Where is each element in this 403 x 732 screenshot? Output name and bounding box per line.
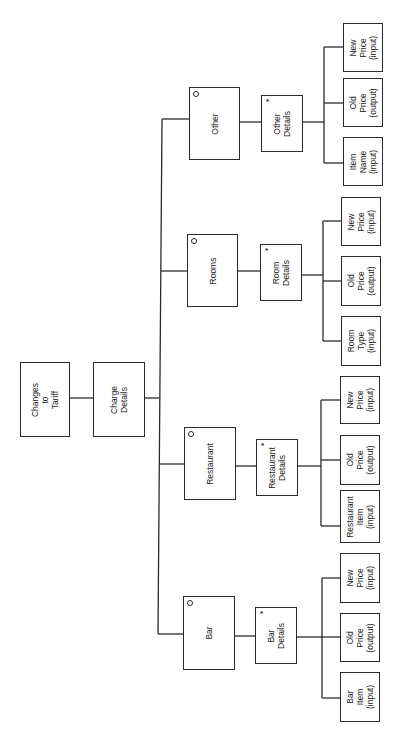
branch-box-restaurant[interactable]: Restaurant xyxy=(184,427,236,500)
leaf-label: Room Type (input) xyxy=(346,329,376,353)
leaf-label: Old Price (output) xyxy=(348,88,378,117)
details-label-bar: Bar Details xyxy=(266,623,286,649)
branch-box-other[interactable]: Other xyxy=(189,87,240,160)
leaf-label: Old Price (output) xyxy=(345,445,375,474)
connector-main-spine xyxy=(158,119,162,634)
selection-marker-icon xyxy=(187,600,193,606)
details-label-restaurant: Restaurant Details xyxy=(267,447,287,489)
leaf-box-other-old-price[interactable]: Old Price (output) xyxy=(343,78,383,127)
charge-details-box[interactable]: Charge Details xyxy=(93,362,145,437)
details-box-other[interactable]: * Other Details xyxy=(261,95,303,152)
leaf-box-restaurant-old-price[interactable]: Old Price (output) xyxy=(340,435,380,485)
selection-marker-icon xyxy=(191,238,197,244)
details-label-rooms: Room Details xyxy=(271,260,291,286)
charge-details-label: Charge Details xyxy=(109,386,129,414)
branch-label-restaurant: Restaurant xyxy=(205,443,215,485)
leaf-box-bar-old-price[interactable]: Old Price (output) xyxy=(340,613,380,662)
leaf-label: Old Price (output) xyxy=(346,266,376,295)
iteration-marker-icon: * xyxy=(261,442,264,449)
branch-box-rooms[interactable]: Rooms xyxy=(187,234,238,307)
selection-marker-icon xyxy=(193,91,199,97)
details-label-other: Other Details xyxy=(272,111,292,137)
leaf-box-other-item-name[interactable]: Item Name (input) xyxy=(343,137,383,186)
leaf-box-bar-new-price[interactable]: New Price (input) xyxy=(340,553,380,603)
leaf-label: Item Name (input) xyxy=(348,149,378,173)
branch-label-bar: Bar xyxy=(204,626,214,639)
leaf-label: Old Price (output) xyxy=(345,623,375,652)
leaf-box-rooms-old-price[interactable]: Old Price (output) xyxy=(341,256,381,306)
branch-box-bar[interactable]: Bar xyxy=(183,596,235,670)
leaf-box-rooms-room-type[interactable]: Room Type (input) xyxy=(341,316,381,366)
leaf-box-rooms-new-price[interactable]: New Price (input) xyxy=(341,197,381,246)
details-box-bar[interactable]: * Bar Details xyxy=(255,607,297,664)
branch-label-rooms: Rooms xyxy=(208,257,218,284)
iteration-marker-icon: * xyxy=(266,98,269,105)
leaf-label: New Price (input) xyxy=(345,388,375,412)
leaf-box-restaurant-new-price[interactable]: New Price (input) xyxy=(340,376,380,424)
iteration-marker-icon: * xyxy=(260,610,263,617)
leaf-label: Bar Item (input) xyxy=(345,685,375,709)
details-box-rooms[interactable]: * Room Details xyxy=(260,244,302,301)
leaf-label: Restaurant Item (input) xyxy=(345,496,375,538)
leaf-box-restaurant-item[interactable]: Restaurant Item (input) xyxy=(340,490,380,543)
leaf-label: New Price (input) xyxy=(348,35,378,59)
iteration-marker-icon: * xyxy=(265,247,268,254)
leaf-box-bar-item[interactable]: Bar Item (input) xyxy=(340,672,380,722)
details-box-restaurant[interactable]: * Restaurant Details xyxy=(256,439,298,496)
leaf-box-other-new-price[interactable]: New Price (input) xyxy=(343,23,383,72)
leaf-label: New Price (input) xyxy=(346,209,376,233)
root-box-changes-to-tariff[interactable]: Changes to Tariff xyxy=(20,362,70,437)
root-label: Changes to Tariff xyxy=(30,382,60,416)
branch-label-other: Other xyxy=(210,113,220,134)
leaf-label: New Price (input) xyxy=(345,566,375,590)
selection-marker-icon xyxy=(188,431,194,437)
